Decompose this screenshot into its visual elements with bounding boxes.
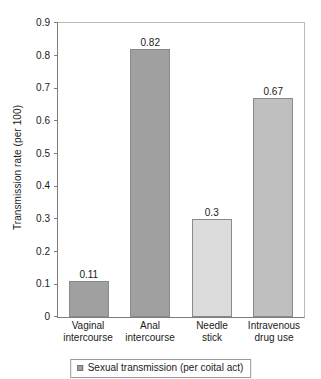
x-axis-label-line: intercourse bbox=[57, 332, 119, 344]
bar-slot: 0.82 bbox=[120, 23, 182, 317]
bar[interactable]: 0.67 bbox=[253, 98, 293, 317]
y-axis-tick: 0.6 bbox=[36, 116, 58, 126]
x-axis-label-line: drug use bbox=[243, 332, 305, 344]
chart-legend: Sexual transmission (per coital act) bbox=[70, 359, 252, 378]
x-axis-label-line: Needle bbox=[181, 320, 243, 332]
y-axis-tick-label: 0.4 bbox=[36, 181, 54, 191]
y-axis-tick: 0.8 bbox=[36, 51, 58, 61]
y-axis-tick: 0.4 bbox=[36, 181, 58, 191]
y-axis-tick: 0.3 bbox=[36, 214, 58, 224]
x-axis-label-line: intercourse bbox=[119, 332, 181, 344]
y-axis-tick: 0.9 bbox=[36, 18, 58, 28]
x-axis-label-line: Anal bbox=[119, 320, 181, 332]
y-axis-tick: 0.5 bbox=[36, 149, 58, 159]
legend-item-label: Sexual transmission (per coital act) bbox=[88, 362, 244, 374]
bar-series: 0.110.820.30.67 bbox=[58, 23, 304, 317]
y-axis-tick-label: 0 bbox=[44, 312, 54, 322]
bar-value-label: 0.3 bbox=[205, 208, 219, 218]
y-axis-tick: 0.1 bbox=[36, 279, 58, 289]
bar[interactable]: 0.82 bbox=[130, 49, 170, 317]
y-axis-tick: 0.2 bbox=[36, 247, 58, 257]
x-axis-label-line: stick bbox=[181, 332, 243, 344]
y-axis-tick-label: 0.6 bbox=[36, 116, 54, 126]
x-axis-category-label: Intravenousdrug use bbox=[243, 320, 305, 344]
x-axis-labels: VaginalintercourseAnalintercourseNeedles… bbox=[57, 320, 305, 344]
y-axis-tick: 0.7 bbox=[36, 83, 58, 93]
x-axis-category-label: Vaginalintercourse bbox=[57, 320, 119, 344]
y-axis-tick-label: 0.3 bbox=[36, 214, 54, 224]
bar-slot: 0.67 bbox=[243, 23, 305, 317]
x-axis-category-label: Analintercourse bbox=[119, 320, 181, 344]
legend-swatch-icon bbox=[77, 365, 83, 371]
bar-slot: 0.3 bbox=[181, 23, 243, 317]
y-axis-tick-label: 0.2 bbox=[36, 247, 54, 257]
x-axis-label-line: Intravenous bbox=[243, 320, 305, 332]
y-axis-tick-label: 0.7 bbox=[36, 83, 54, 93]
y-axis-tick-label: 0.5 bbox=[36, 149, 54, 159]
y-axis-tick-label: 0.8 bbox=[36, 51, 54, 61]
y-axis-title: Transmission rate (per 100) bbox=[12, 58, 23, 278]
y-axis-tick: 0 bbox=[44, 312, 58, 322]
bar-value-label: 0.67 bbox=[264, 87, 283, 97]
x-axis-label-line: Vaginal bbox=[57, 320, 119, 332]
bar-value-label: 0.11 bbox=[79, 270, 98, 280]
bar-chart-figure: Transmission rate (per 100) 0.90.80.70.6… bbox=[0, 0, 321, 379]
plot-area: 0.90.80.70.60.50.40.30.20.10 0.110.820.3… bbox=[57, 22, 305, 318]
bar[interactable]: 0.11 bbox=[69, 281, 109, 317]
bar-value-label: 0.82 bbox=[141, 38, 160, 48]
y-axis-tick-label: 0.1 bbox=[36, 279, 54, 289]
y-axis-tick-label: 0.9 bbox=[36, 18, 54, 28]
bar[interactable]: 0.3 bbox=[192, 219, 232, 317]
x-axis-category-label: Needlestick bbox=[181, 320, 243, 344]
bar-slot: 0.11 bbox=[58, 23, 120, 317]
